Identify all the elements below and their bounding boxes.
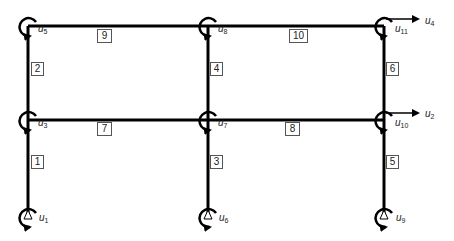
pin-support-left bbox=[20, 209, 36, 227]
member-label-9: 9 bbox=[97, 29, 112, 43]
dof-label-u5: u5 bbox=[38, 23, 47, 35]
member-label-6: 6 bbox=[386, 62, 399, 76]
pin-support-middle bbox=[200, 209, 216, 227]
dof-label-u3: u3 bbox=[38, 117, 47, 129]
member-label-4: 4 bbox=[210, 62, 223, 76]
dof-label-u9: u9 bbox=[396, 212, 405, 224]
dof-label-u11: u11 bbox=[395, 23, 408, 35]
dof-label-u1: u1 bbox=[39, 212, 48, 224]
member-label-3: 3 bbox=[210, 155, 223, 169]
dof-label-u10: u10 bbox=[395, 117, 408, 129]
member-label-7: 7 bbox=[97, 122, 112, 136]
member-label-8: 8 bbox=[285, 122, 300, 136]
member-label-5: 5 bbox=[386, 155, 399, 169]
dof-label-u4: u4 bbox=[425, 15, 434, 27]
member-label-10: 10 bbox=[289, 29, 308, 43]
member-label-2: 2 bbox=[31, 62, 44, 76]
dof-label-u8: u8 bbox=[218, 23, 227, 35]
dof-label-u7: u7 bbox=[218, 117, 227, 129]
pin-support-right bbox=[376, 209, 392, 227]
member-label-1: 1 bbox=[31, 155, 44, 169]
dof-label-u6: u6 bbox=[219, 212, 228, 224]
dof-label-u2: u2 bbox=[425, 108, 434, 120]
